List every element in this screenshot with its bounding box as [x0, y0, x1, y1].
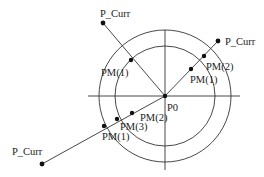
pm-label: PM(1)	[190, 74, 218, 86]
pm-point	[115, 117, 119, 121]
p-curr-label: P_Curr	[12, 146, 43, 157]
pm-point	[102, 124, 106, 128]
p-curr-label: P_Curr	[225, 36, 256, 47]
pm-point	[189, 67, 193, 71]
polar-diagram: P_CurrPM(1)P_CurrPM(2)PM(1)P_CurrPM(1)PM…	[0, 0, 264, 177]
p0-label: P0	[167, 102, 178, 113]
ray-top-left	[103, 23, 165, 96]
pm-point	[130, 111, 134, 115]
pm-point	[129, 58, 133, 62]
p-curr-point	[40, 162, 45, 167]
pm-label: PM(2)	[140, 112, 168, 124]
p-curr-point	[101, 21, 106, 26]
pm-label: PM(2)	[206, 61, 234, 73]
p0-point	[163, 94, 167, 98]
p-curr-point	[216, 39, 221, 44]
pm-point	[202, 54, 206, 58]
pm-label: PM(1)	[102, 131, 130, 143]
p-curr-label: P_Curr	[100, 8, 131, 19]
pm-label: PM(1)	[101, 67, 129, 79]
